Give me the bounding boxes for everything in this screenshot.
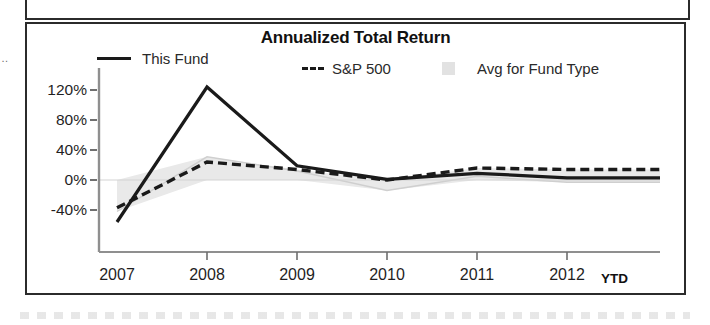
x-axis-tick-label: 2012 (537, 266, 597, 284)
y-axis-tick-label: 40% (21, 141, 87, 159)
bottom-scan-artifact (20, 312, 690, 319)
y-axis-tick-label: 0% (21, 171, 87, 189)
y-axis-tick-label: 80% (21, 111, 87, 129)
y-axis-tick-label: 120% (21, 81, 87, 99)
annualized-total-return-chart-panel: Annualized Total Return This Fund S&P 50… (25, 22, 686, 295)
x-axis-tick-label: 2007 (87, 266, 147, 284)
chart-axes (90, 68, 660, 260)
y-axis-tick-label: -40% (21, 201, 87, 219)
x-axis-ytd-label: YTD (601, 271, 628, 286)
x-axis-tick-label: 2011 (447, 266, 507, 284)
left-edge-text-artifact: … (1, 52, 9, 64)
adjacent-panel-bottom-edge (25, 0, 690, 20)
this-fund-series-line (117, 87, 660, 222)
x-axis-tick-label: 2010 (357, 266, 417, 284)
plot-area (27, 24, 688, 297)
x-axis-tick-label: 2009 (267, 266, 327, 284)
x-axis-tick-label: 2008 (177, 266, 237, 284)
